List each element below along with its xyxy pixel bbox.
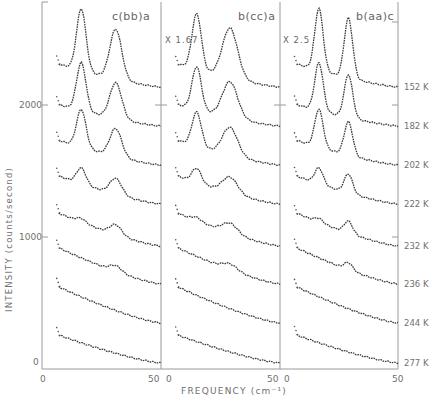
data-point [175,132,177,134]
data-point [57,59,59,61]
y-tick-2000: 2000 [19,100,42,110]
data-point [56,278,58,280]
data-point [59,335,61,337]
data-point [297,140,299,142]
data-point [297,247,299,249]
y-tick-1000: 1000 [19,232,42,242]
x-tick-0-panel2: 0 [166,374,172,384]
data-point [59,63,61,65]
data-point [295,243,297,245]
spectrum-curve [297,287,399,323]
data-point [295,136,297,138]
data-point [178,64,180,66]
data-point [59,286,61,288]
spectra-curves [56,8,398,363]
data-point [295,209,297,211]
data-point [176,243,178,245]
x-tick-0-panel3: 0 [284,374,290,384]
y-axis-label: INTENSITY (counts/second) [4,167,14,312]
data-point [178,334,180,336]
data-point [294,56,296,58]
data-point [178,286,180,288]
panel-title-cbba: c(bb)a [112,10,150,23]
spectrum-curve [59,110,161,166]
temp-label-244k: 244 K [404,318,429,328]
x-tick-50-panel1: 50 [148,374,159,384]
data-point [176,136,178,138]
data-point [59,104,61,106]
data-point [56,239,58,241]
data-point [297,287,299,289]
data-point [178,140,180,142]
scale-factor-panel2: X 1.67 [165,35,198,45]
data-point [56,131,58,133]
temp-label-202k: 202 K [404,160,429,170]
data-point [56,327,58,329]
spectrum-curve [178,112,280,166]
spectrum-curve [59,248,161,284]
spectrum-curve [178,67,280,127]
data-point [57,100,59,102]
data-point [176,209,178,211]
data-point [294,239,296,241]
spectrum-curve [178,213,280,246]
data-point [175,95,177,97]
data-point [178,175,180,177]
x-tick-0-panel1: 0 [40,374,46,384]
x-tick-50-panel3: 50 [392,374,403,384]
spectrum-curve [59,213,161,247]
data-point [176,282,178,284]
data-point [175,326,177,328]
data-point [56,204,58,206]
data-point [175,56,177,58]
data-point [175,239,177,241]
spectrum-curve [297,63,399,127]
data-point [295,99,297,101]
scale-factor-panel3: X 2.5 [283,35,310,45]
data-point [59,247,61,249]
spectrum-curve [297,247,399,284]
temp-label-182k: 182 K [404,121,429,131]
x-tick-50-panel2: 50 [267,374,278,384]
spectrum-curve [297,214,399,247]
data-point [297,334,299,336]
panel-title-baac: b(aa)c [356,10,394,23]
temp-label-277k: 277 K [404,358,429,368]
y-tick-0: 0 [33,357,39,367]
x-axis-label: FREQUENCY (cm⁻¹) [181,386,287,396]
data-point [295,60,297,62]
spectrum-curve [297,335,399,364]
data-point [56,168,58,170]
raman-spectra-chart [0,0,432,401]
data-point [57,243,59,245]
spectrum-curve [178,169,280,205]
spectrum-curve [59,167,161,204]
data-point [294,279,296,281]
spectrum-curve [178,335,280,363]
temp-label-152k: 152 K [404,82,429,92]
spectrum-curve [297,109,399,165]
temp-label-232k: 232 K [404,241,429,251]
data-point [178,247,180,249]
data-point [295,283,297,285]
data-point [57,208,59,210]
data-point [294,167,296,169]
data-point [59,176,61,178]
spectrum-curve [59,62,161,126]
data-point [297,103,299,105]
data-point [175,205,177,207]
data-point [295,330,297,332]
data-point [178,213,180,215]
data-point [57,282,59,284]
data-point [176,330,178,332]
data-point [295,171,297,173]
spectrum-curve [178,287,280,323]
temp-label-236k: 236 K [404,279,429,289]
data-point [59,139,61,141]
data-point [294,132,296,134]
data-point [294,326,296,328]
data-point [57,135,59,137]
spectrum-curve [59,286,161,323]
data-point [56,96,58,98]
data-point [297,175,299,177]
